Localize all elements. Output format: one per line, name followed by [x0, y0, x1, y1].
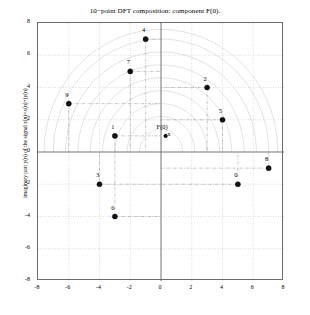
x-tick-label: 4 — [210, 284, 234, 290]
plot-svg — [38, 23, 284, 281]
x-tick-label: 6 — [240, 284, 264, 290]
data-point-label: 1 — [103, 123, 123, 130]
data-point-label: 7 — [118, 58, 138, 65]
x-tick-label: 8 — [271, 284, 295, 290]
y-tick-label: -2 — [8, 179, 30, 185]
f0-marker-symbol: x — [168, 131, 171, 137]
x-axis-ticks: -8-6-4-202468 — [37, 283, 283, 295]
x-tick-label: -6 — [56, 284, 80, 290]
chart-title: 10−point DFT composition: component F(0)… — [0, 7, 310, 15]
data-point-label: 3 — [88, 171, 108, 178]
y-tick-label: -6 — [8, 244, 30, 250]
x-tick-label: -8 — [25, 284, 49, 290]
data-point-label: 4 — [134, 26, 154, 33]
f0-annotation-label: F(0) — [157, 123, 168, 130]
plot-area — [37, 22, 283, 280]
y-tick-label: 6 — [8, 50, 30, 56]
data-point-label: 5 — [211, 107, 231, 114]
data-point-label: 0 — [226, 171, 246, 178]
x-tick-label: -2 — [117, 284, 141, 290]
data-point-label: 6 — [103, 204, 123, 211]
x-tick-label: 2 — [179, 284, 203, 290]
data-point-label: 8 — [257, 155, 277, 162]
y-tick-label: -8 — [8, 276, 30, 282]
y-tick-label: -4 — [8, 212, 30, 218]
chart-figure: 10−point DFT composition: component F(0)… — [0, 0, 310, 315]
data-point-label: 2 — [195, 75, 215, 82]
y-tick-label: 8 — [8, 18, 30, 24]
x-tick-label: -4 — [87, 284, 111, 290]
y-axis-ticks: -8-6-4-202468 — [8, 22, 35, 280]
y-tick-label: 0 — [8, 147, 30, 153]
y-tick-label: 4 — [8, 83, 30, 89]
y-tick-label: 2 — [8, 115, 30, 121]
x-tick-label: 0 — [148, 284, 172, 290]
data-point-label: 9 — [57, 91, 77, 98]
